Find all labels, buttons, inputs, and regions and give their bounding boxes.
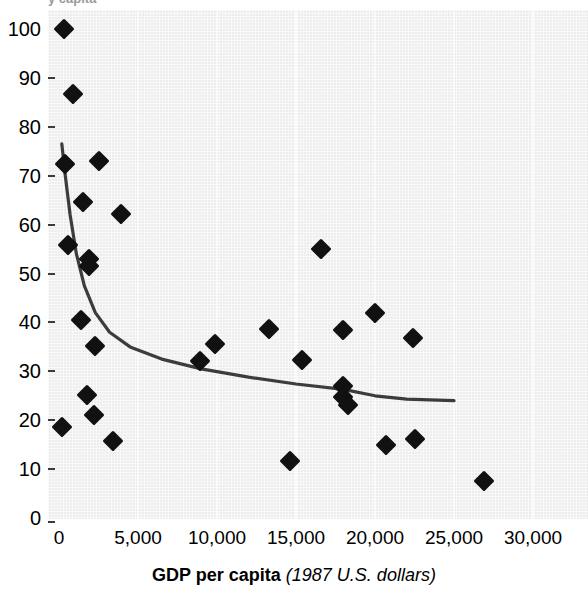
- data-point: [58, 235, 79, 256]
- plot-background-texture: [48, 10, 588, 519]
- scatter-chart-figure: y capita 0102030405060708090100 05,00010…: [0, 0, 588, 596]
- data-point: [311, 238, 332, 259]
- y-tick-label-50: 50: [1, 264, 41, 284]
- x-axis-title-bold: GDP per capita: [152, 565, 281, 585]
- x-tick-label-15000: 15,000: [267, 528, 325, 548]
- data-point: [402, 327, 423, 348]
- data-point: [71, 310, 92, 331]
- y-tick-label-20: 20: [1, 410, 41, 430]
- y-tick-label-90: 90: [1, 68, 41, 88]
- cropped-header-label: y capita: [48, 0, 96, 6]
- data-point: [259, 319, 280, 340]
- data-point: [110, 203, 131, 224]
- y-tickmark-70: [48, 175, 55, 177]
- data-point: [375, 435, 396, 456]
- data-point: [473, 470, 494, 491]
- data-point: [189, 350, 210, 371]
- y-tickmark-50: [48, 273, 55, 275]
- x-tick-label-20000: 20,000: [346, 528, 404, 548]
- data-point: [404, 428, 425, 449]
- y-tickmark-80: [48, 126, 55, 128]
- trend-line: [48, 10, 588, 519]
- x-tick-label-25000: 25,000: [425, 528, 483, 548]
- x-tick-label-0: 0: [54, 528, 65, 548]
- x-tick-label-5000: 5,000: [114, 528, 162, 548]
- y-tickmark-90: [48, 77, 55, 79]
- plot-area: [48, 10, 588, 519]
- x-axis-title: GDP per capita (1987 U.S. dollars): [0, 565, 588, 586]
- y-tick-label-70: 70: [1, 166, 41, 186]
- data-point: [88, 150, 109, 171]
- gridline-x-20000: [374, 10, 376, 519]
- data-point: [63, 83, 84, 104]
- data-point: [364, 302, 385, 323]
- y-tickmark-60: [48, 224, 55, 226]
- x-axis-title-italic: (1987 U.S. dollars): [286, 565, 436, 585]
- data-point: [72, 191, 93, 212]
- gridline-x-30000: [532, 10, 534, 519]
- y-tickmark-10: [48, 468, 55, 470]
- data-point: [333, 320, 354, 341]
- y-tick-label-30: 30: [1, 361, 41, 381]
- data-point: [85, 336, 106, 357]
- y-axis-ticks: 0102030405060708090100: [0, 10, 41, 519]
- y-tickmark-30: [48, 370, 55, 372]
- y-tick-label-100: 100: [1, 19, 41, 39]
- cropped-header-text: y capita: [48, 0, 348, 8]
- data-point: [279, 450, 300, 471]
- gridline-x-15000: [295, 10, 297, 519]
- data-point: [205, 334, 226, 355]
- y-tickmark-20: [48, 419, 55, 421]
- data-point: [55, 154, 76, 175]
- data-point: [77, 384, 98, 405]
- gridline-x-5000: [137, 10, 139, 519]
- y-tickmark-40: [48, 321, 55, 323]
- y-tick-label-0: 0: [1, 508, 41, 528]
- gridline-x-25000: [453, 10, 455, 519]
- y-tick-label-40: 40: [1, 312, 41, 332]
- x-tick-label-30000: 30,000: [504, 528, 562, 548]
- data-point: [83, 404, 104, 425]
- y-tickmark-0: [48, 521, 55, 523]
- gridline-x-10000: [216, 10, 218, 519]
- y-tick-label-80: 80: [1, 117, 41, 137]
- data-point: [53, 18, 74, 39]
- data-point: [102, 431, 123, 452]
- y-tick-label-10: 10: [1, 459, 41, 479]
- x-tick-label-10000: 10,000: [188, 528, 246, 548]
- y-tick-label-60: 60: [1, 215, 41, 235]
